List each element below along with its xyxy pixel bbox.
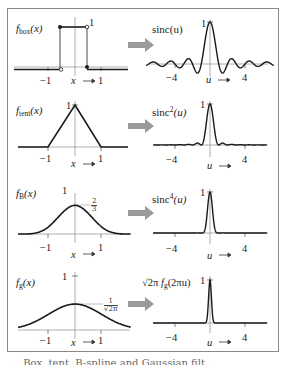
tick-label: −4 xyxy=(166,243,177,254)
axis-name-x: x xyxy=(71,158,76,169)
function-label-fg: fg(x) xyxy=(16,277,35,291)
function-label-fbox: fbox(x) xyxy=(16,23,43,37)
tick-label: 1 xyxy=(98,335,103,346)
tick-label: −4 xyxy=(166,332,177,343)
bspline-curve xyxy=(18,205,131,234)
peak-value-label: 1 xyxy=(62,185,67,196)
tick-label: 4 xyxy=(242,332,247,343)
axis-name-x: x xyxy=(71,337,76,348)
axis-name-u: u xyxy=(207,250,212,261)
transform-arrow-icon xyxy=(128,119,154,133)
closed-dot xyxy=(85,65,89,69)
peak-value-label: 1 xyxy=(62,271,67,282)
filter-comparison-figure xyxy=(0,0,287,365)
figure-frame xyxy=(8,9,279,352)
tick-label: −1 xyxy=(40,335,51,346)
axis-name-u: u xyxy=(207,337,212,348)
tick-label: −1 xyxy=(40,75,51,86)
function-label-gaussian-ft: √2π fg(2πu) xyxy=(142,277,190,291)
tick-label: 1 xyxy=(98,242,103,253)
transform-arrow-icon xyxy=(128,297,154,311)
tick-label: 4 xyxy=(242,154,247,165)
value-fraction-inv-sqrt-2pi: 1√2π xyxy=(104,298,118,313)
tick-label: −4 xyxy=(166,154,177,165)
axis-name-u: u xyxy=(206,74,211,85)
tick-label: 1 xyxy=(98,153,103,164)
function-label-sinc2: sinc2(u) xyxy=(152,104,186,118)
peak-value-label: 1 xyxy=(200,187,205,198)
axis-name-x: x xyxy=(71,75,76,86)
value-fraction-two-thirds: 23 xyxy=(91,198,97,213)
tick-label: −1 xyxy=(40,242,51,253)
tick-label: −1 xyxy=(40,153,51,164)
peak-value-label: 1 xyxy=(66,100,71,111)
axis-name-u: u xyxy=(207,160,212,171)
figure-caption: … Box, tent, B-spline and Gaussian filt… xyxy=(10,356,287,365)
tick-label: −4 xyxy=(166,72,177,83)
function-label-ftent: ftent(x) xyxy=(16,105,43,119)
transform-arrow-icon xyxy=(128,38,154,52)
peak-value-label: 1 xyxy=(200,275,205,286)
peak-value-label: 1 xyxy=(89,17,94,28)
axis-name-x: x xyxy=(71,249,76,260)
tick-label: 4 xyxy=(242,72,247,83)
transform-arrow-icon xyxy=(128,206,154,220)
open-dot xyxy=(59,68,63,72)
closed-dot xyxy=(58,25,62,29)
tick-label: 1 xyxy=(98,75,103,86)
function-label-sinc4: sinc4(u) xyxy=(152,191,186,205)
function-label-fB: fB(x) xyxy=(16,188,36,202)
peak-value-label: 1 xyxy=(201,18,206,29)
tick-label: 4 xyxy=(242,243,247,254)
peak-value-label: 1 xyxy=(200,99,205,110)
function-label-sinc: sinc(u) xyxy=(152,24,183,35)
